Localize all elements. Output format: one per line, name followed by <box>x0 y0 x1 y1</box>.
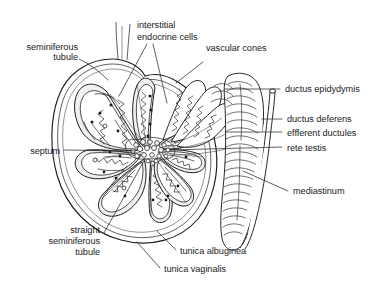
label-straight-seminiferous-tubule: straight <box>70 225 100 235</box>
testis-diagram: seminiferous tubule interstitial endocri… <box>0 0 390 292</box>
leader-tunica-vaginalis <box>137 242 160 268</box>
label-interstitial-endocrine-cells-line2: endocrine cells <box>137 32 198 42</box>
label-mediastinum: mediastinum <box>293 186 345 196</box>
label-straight-seminiferous-tubule-line2: seminiferous <box>49 236 101 246</box>
label-ductus-epidydymis: ductus epidydymis <box>285 84 360 94</box>
leader-vascular-cones <box>176 62 203 83</box>
testis-body <box>52 22 232 243</box>
label-tunica-albuginea: tunica albuginea <box>180 246 247 256</box>
label-rete-testis: rete testis <box>287 143 327 153</box>
label-straight-seminiferous-tubule-line3: tubule <box>75 247 100 257</box>
label-tunica-vaginalis: tunica vaginalis <box>164 264 226 274</box>
label-interstitial-endocrine-cells: interstitial <box>137 20 175 30</box>
label-septum: septum <box>30 146 60 156</box>
label-ductus-deferens: ductus deferens <box>287 114 352 124</box>
diagram-canvas: seminiferous tubule interstitial endocri… <box>0 0 390 292</box>
label-seminiferous-tubule-line2: tubule <box>53 52 78 62</box>
label-vascular-cones: vascular cones <box>206 43 267 53</box>
spermatic-cord-stalk <box>116 22 130 60</box>
label-efferent-ductules: effferent ductules <box>287 128 357 138</box>
label-seminiferous-tubule: seminiferous <box>27 42 79 52</box>
